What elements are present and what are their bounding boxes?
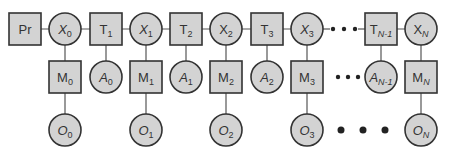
node-o1: O1	[130, 114, 162, 146]
node-label-base: M	[412, 70, 423, 85]
node-label-base: A	[368, 70, 378, 85]
node-label-subscript: N	[422, 29, 429, 39]
dot-icon	[356, 75, 360, 79]
node-label-base: A	[178, 70, 188, 85]
node-label: Pr	[19, 22, 33, 37]
node-label-base: O	[218, 123, 228, 138]
node-label-base: M	[299, 70, 310, 85]
node-label-base: T	[100, 22, 108, 37]
middle-ellipsis	[336, 75, 360, 79]
node-tn-1: TN-1	[365, 13, 397, 45]
node-label-base: X	[413, 22, 422, 37]
node-label-subscript: 2	[187, 29, 192, 39]
dot-icon	[360, 127, 367, 134]
node-label-subscript: 1	[149, 130, 154, 140]
node-x0: X0	[49, 13, 81, 45]
node-label-subscript: N	[423, 77, 430, 87]
node-label-subscript: 3	[268, 29, 273, 39]
bottom-ellipsis	[338, 127, 389, 134]
node-an-1: AN-1	[365, 61, 397, 93]
node-label-subscript: 2	[269, 77, 274, 87]
node-o2: O2	[210, 114, 242, 146]
node-a1: A1	[170, 61, 202, 93]
node-m1: M1	[130, 61, 162, 93]
node-label-subscript: N-1	[378, 29, 393, 39]
node-label-subscript: 0	[68, 130, 73, 140]
node-label-subscript: 2	[228, 29, 233, 39]
node-o0: O0	[49, 114, 81, 146]
dot-icon	[382, 127, 389, 134]
dot-icon	[338, 127, 345, 134]
top-ellipsis	[331, 27, 357, 31]
node-label-base: O	[413, 123, 423, 138]
node-m0: M0	[49, 61, 81, 93]
node-label-subscript: 1	[107, 29, 112, 39]
node-t2: T2	[170, 13, 202, 45]
node-label-base: Pr	[19, 22, 33, 37]
node-label-base: T	[180, 22, 188, 37]
node-label-subscript: 0	[68, 77, 73, 87]
node-t1: T1	[90, 13, 122, 45]
node-mn: MN	[405, 61, 437, 93]
node-x3: X3	[291, 13, 323, 45]
node-label-subscript: 1	[149, 77, 154, 87]
node-m3: M3	[291, 61, 323, 93]
node-label-subscript: N-1	[378, 77, 393, 87]
node-label-base: M	[138, 70, 149, 85]
dot-icon	[353, 27, 357, 31]
node-label-base: X	[219, 22, 228, 37]
node-label-subscript: 2	[229, 130, 234, 140]
node-label-base: M	[57, 70, 68, 85]
dot-icon	[336, 75, 340, 79]
node-label-base: T	[261, 22, 269, 37]
node-label-base: A	[98, 70, 108, 85]
node-x1: X1	[130, 13, 162, 45]
node-label-base: O	[138, 123, 148, 138]
node-label-base: O	[299, 123, 309, 138]
node-label-subscript: 3	[310, 77, 315, 87]
dot-icon	[346, 75, 350, 79]
nodes: PrX0T1X1T2X2T3X3TN-1XNM0A0M1A1M2A2M3AN-1…	[9, 13, 437, 146]
node-label-subscript: 1	[188, 77, 193, 87]
node-x2: X2	[210, 13, 242, 45]
node-pr: Pr	[9, 13, 41, 45]
dot-icon	[331, 27, 335, 31]
node-m2: M2	[210, 61, 242, 93]
node-a2: A2	[251, 61, 283, 93]
node-o3: O3	[291, 114, 323, 146]
node-label-subscript: 1	[148, 29, 153, 39]
node-label-subscript: 2	[229, 77, 234, 87]
node-label-base: M	[218, 70, 229, 85]
node-label-subscript: 0	[67, 29, 72, 39]
node-label-subscript: 3	[310, 130, 315, 140]
node-label-subscript: N	[423, 130, 430, 140]
node-t3: T3	[251, 13, 283, 45]
node-a0: A0	[90, 61, 122, 93]
node-label-base: T	[370, 22, 378, 37]
node-label-base: O	[57, 123, 67, 138]
node-label-subscript: 0	[108, 77, 113, 87]
node-label-subscript: 3	[309, 29, 314, 39]
node-xn: XN	[405, 13, 437, 45]
node-on: ON	[405, 114, 437, 146]
chain-diagram: PrX0T1X1T2X2T3X3TN-1XNM0A0M1A1M2A2M3AN-1…	[0, 0, 449, 157]
dot-icon	[342, 27, 346, 31]
node-label-base: A	[259, 70, 269, 85]
